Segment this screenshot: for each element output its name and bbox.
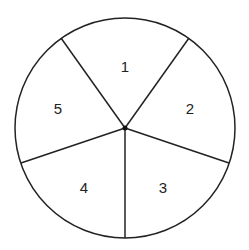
center-pin-icon [123, 126, 128, 131]
sector-label-2: 2 [186, 100, 194, 117]
sector-label-4: 4 [80, 179, 88, 196]
spinner-svg: 1 2 3 4 5 [0, 0, 249, 250]
spinner-diagram: 1 2 3 4 5 [0, 0, 249, 250]
sector-label-1: 1 [121, 58, 129, 75]
sector-label-3: 3 [159, 179, 167, 196]
sector-label-5: 5 [54, 100, 62, 117]
